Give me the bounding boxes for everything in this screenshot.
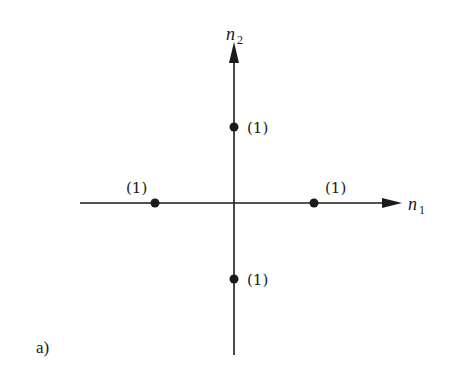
- point-neg1-0: [151, 199, 160, 208]
- n1-axis-label: n1: [408, 194, 425, 217]
- lattice-diagram: n1 n2 (1) (1) (1) (1): [0, 0, 450, 382]
- point-value-label: (1): [126, 179, 147, 197]
- point-value-label: (1): [325, 179, 346, 197]
- n1-arrowhead-icon: [382, 198, 402, 208]
- n2-axis-label: n2: [226, 24, 243, 47]
- point-0-neg1: [230, 275, 239, 284]
- point-0-1: [230, 123, 239, 132]
- point-value-label: (1): [247, 119, 268, 137]
- point-value-label: (1): [247, 271, 268, 289]
- point-1-0: [310, 199, 319, 208]
- panel-label: a): [36, 338, 49, 358]
